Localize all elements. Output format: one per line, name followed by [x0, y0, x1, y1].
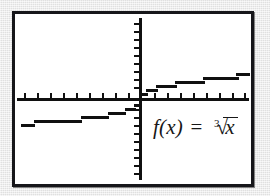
- vinculum-bar: [223, 117, 238, 118]
- y-axis: [139, 18, 142, 180]
- equals-sign: =: [188, 115, 204, 139]
- function-label: f(x) = 3√x: [153, 115, 238, 140]
- x-axis: [17, 98, 249, 101]
- curve-right-branch: [140, 73, 250, 96]
- plot-area: f(x) = 3√x: [15, 14, 251, 184]
- figure-container: f(x) = 3√x: [0, 0, 270, 196]
- function-notation: f(x): [153, 115, 183, 139]
- x-axis-ticks: [24, 93, 246, 98]
- curve-left-branch: [21, 104, 141, 127]
- function-graph-svg: [15, 14, 251, 184]
- cube-root-expression: 3√x: [210, 115, 238, 140]
- radicand: x: [225, 115, 235, 139]
- graph-frame: f(x) = 3√x: [12, 11, 254, 187]
